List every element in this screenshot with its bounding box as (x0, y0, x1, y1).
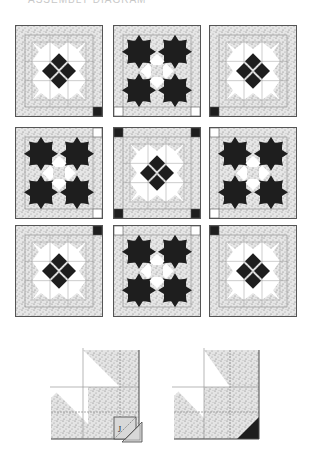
quilt-block-star-block (15, 127, 103, 219)
quilt-block-svg (15, 127, 103, 219)
quilt-block-star-block (113, 225, 201, 317)
quilt-block-star-block (209, 127, 297, 219)
quilt-block-svg (209, 225, 297, 317)
quilt-block-diamond-block (209, 25, 297, 117)
quilt-block-svg (113, 127, 201, 219)
corner-diagram-after-svg (172, 348, 262, 443)
square-j-label: J (118, 425, 121, 434)
top-caption: ASSEMBLY DIAGRAM (28, 0, 146, 5)
quilt-block-svg (209, 25, 297, 117)
quilt-block-diamond-block (15, 25, 103, 117)
quilt-block-svg (113, 25, 201, 117)
quilt-block-svg (113, 225, 201, 317)
quilt-block-diamond-block (209, 225, 297, 317)
quilt-block-svg (209, 127, 297, 219)
corner-diagram-after (172, 348, 262, 447)
quilt-block-diamond-block (15, 225, 103, 317)
quilt-block-svg (15, 225, 103, 317)
corner-diagram-before: J (50, 348, 145, 447)
quilt-block-svg (15, 25, 103, 117)
quilt-block-star-block (113, 25, 201, 117)
corner-diagram-before-svg: J (50, 348, 145, 443)
quilt-block-diamond-block (113, 127, 201, 219)
